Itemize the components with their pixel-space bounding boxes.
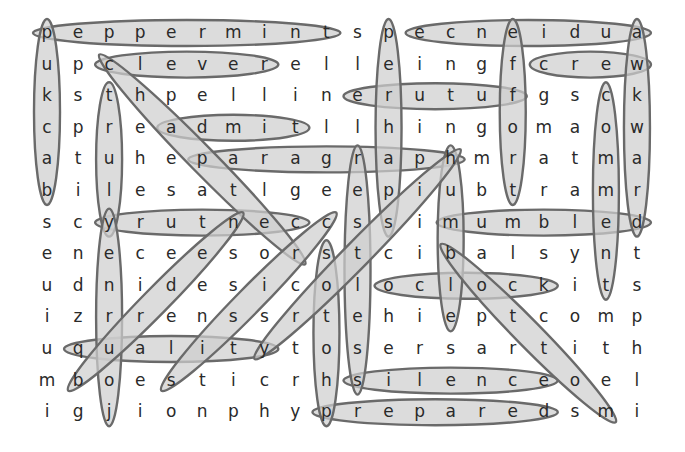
grid-cell[interactable]: o <box>314 273 338 297</box>
grid-cell[interactable]: s <box>221 273 245 297</box>
grid-cell[interactable]: k <box>625 83 649 107</box>
grid-cell[interactable]: n <box>470 20 494 44</box>
grid-cell[interactable]: m <box>470 146 494 170</box>
grid-cell[interactable]: a <box>625 146 649 170</box>
grid-cell[interactable]: s <box>35 210 59 234</box>
grid-cell[interactable]: g <box>314 146 338 170</box>
grid-cell[interactable]: c <box>408 273 432 297</box>
grid-cell[interactable]: e <box>594 368 618 392</box>
grid-cell[interactable]: o <box>159 399 183 423</box>
grid-cell[interactable]: e <box>128 178 152 202</box>
grid-cell[interactable]: e <box>314 178 338 202</box>
grid-cell[interactable]: p <box>408 399 432 423</box>
grid-cell[interactable]: l <box>314 52 338 76</box>
grid-cell[interactable]: m <box>221 20 245 44</box>
grid-cell[interactable]: r <box>190 20 214 44</box>
grid-cell[interactable]: o <box>314 336 338 360</box>
grid-cell[interactable]: t <box>283 115 307 139</box>
grid-cell[interactable]: s <box>563 83 587 107</box>
grid-cell[interactable]: n <box>594 241 618 265</box>
grid-cell[interactable]: i <box>408 115 432 139</box>
grid-cell[interactable]: d <box>66 273 90 297</box>
grid-cell[interactable]: i <box>408 241 432 265</box>
grid-cell[interactable]: a <box>283 146 307 170</box>
grid-cell[interactable]: s <box>159 368 183 392</box>
grid-cell[interactable]: e <box>346 304 370 328</box>
grid-cell[interactable]: c <box>35 115 59 139</box>
grid-cell[interactable]: t <box>532 336 556 360</box>
grid-cell[interactable]: e <box>66 20 90 44</box>
grid-cell[interactable]: c <box>532 52 556 76</box>
grid-cell[interactable]: p <box>221 399 245 423</box>
grid-cell[interactable]: n <box>314 83 338 107</box>
grid-cell[interactable]: l <box>252 83 276 107</box>
grid-cell[interactable]: s <box>221 304 245 328</box>
grid-cell[interactable]: c <box>501 273 525 297</box>
grid-cell[interactable]: k <box>35 83 59 107</box>
grid-cell[interactable]: i <box>252 273 276 297</box>
grid-cell[interactable]: p <box>190 146 214 170</box>
grid-cell[interactable]: e <box>501 399 525 423</box>
grid-cell[interactable]: i <box>408 304 432 328</box>
grid-cell[interactable]: l <box>346 115 370 139</box>
grid-cell[interactable]: h <box>377 115 401 139</box>
grid-cell[interactable]: p <box>97 20 121 44</box>
grid-cell[interactable]: s <box>563 399 587 423</box>
grid-cell[interactable]: b <box>439 241 463 265</box>
grid-cell[interactable]: t <box>625 241 649 265</box>
grid-cell[interactable]: c <box>252 368 276 392</box>
grid-cell[interactable]: a <box>532 146 556 170</box>
grid-cell[interactable]: u <box>35 52 59 76</box>
grid-cell[interactable]: r <box>408 336 432 360</box>
grid-cell[interactable]: a <box>128 336 152 360</box>
grid-cell[interactable]: l <box>346 273 370 297</box>
grid-cell[interactable]: e <box>35 241 59 265</box>
grid-cell[interactable]: d <box>563 20 587 44</box>
grid-cell[interactable]: l <box>439 273 463 297</box>
grid-cell[interactable]: t <box>221 178 245 202</box>
grid-cell[interactable]: b <box>66 368 90 392</box>
grid-cell[interactable]: r <box>97 304 121 328</box>
grid-cell[interactable]: s <box>252 304 276 328</box>
grid-cell[interactable]: p <box>66 52 90 76</box>
grid-cell[interactable]: l <box>625 368 649 392</box>
grid-cell[interactable]: u <box>159 210 183 234</box>
grid-cell[interactable]: r <box>377 83 401 107</box>
grid-cell[interactable]: b <box>35 178 59 202</box>
grid-cell[interactable]: e <box>594 52 618 76</box>
grid-cell[interactable]: b <box>470 178 494 202</box>
grid-cell[interactable]: e <box>501 20 525 44</box>
grid-cell[interactable]: n <box>221 210 245 234</box>
grid-cell[interactable]: a <box>563 115 587 139</box>
grid-cell[interactable]: e <box>377 336 401 360</box>
grid-cell[interactable]: i <box>128 273 152 297</box>
grid-cell[interactable]: e <box>159 20 183 44</box>
grid-cell[interactable]: i <box>252 115 276 139</box>
grid-cell[interactable]: t <box>66 146 90 170</box>
grid-cell[interactable]: l <box>128 52 152 76</box>
grid-cell[interactable]: i <box>128 399 152 423</box>
grid-cell[interactable]: u <box>35 273 59 297</box>
grid-cell[interactable]: a <box>470 241 494 265</box>
grid-cell[interactable]: p <box>470 304 494 328</box>
grid-cell[interactable]: a <box>35 146 59 170</box>
grid-cell[interactable]: i <box>35 399 59 423</box>
grid-cell[interactable]: i <box>66 178 90 202</box>
grid-cell[interactable]: o <box>377 273 401 297</box>
grid-cell[interactable]: m <box>221 115 245 139</box>
grid-cell[interactable]: c <box>314 210 338 234</box>
grid-cell[interactable]: e <box>346 83 370 107</box>
grid-cell[interactable]: e <box>439 304 463 328</box>
grid-cell[interactable]: i <box>35 304 59 328</box>
grid-cell[interactable]: c <box>97 52 121 76</box>
grid-cell[interactable]: e <box>159 241 183 265</box>
grid-cell[interactable]: s <box>439 336 463 360</box>
grid-cell[interactable]: p <box>66 115 90 139</box>
grid-cell[interactable]: t <box>346 241 370 265</box>
grid-cell[interactable]: p <box>377 20 401 44</box>
grid-cell[interactable]: t <box>221 336 245 360</box>
grid-cell[interactable]: a <box>190 178 214 202</box>
grid-cell[interactable]: p <box>625 304 649 328</box>
grid-cell[interactable]: t <box>501 178 525 202</box>
grid-cell[interactable]: s <box>346 20 370 44</box>
